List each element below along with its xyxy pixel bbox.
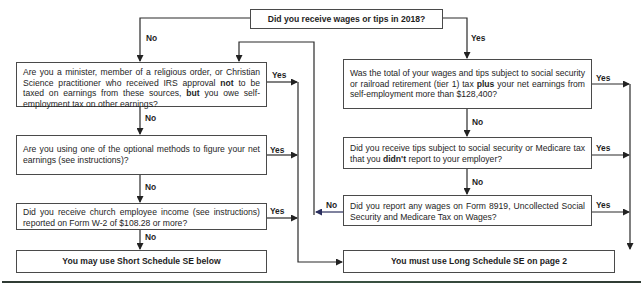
label-yes: Yes xyxy=(270,206,284,216)
label-yes: Yes xyxy=(270,145,284,155)
outcome-long-schedule: You must use Long Schedule SE on page 2 xyxy=(343,250,615,273)
emphasis-but: but xyxy=(186,88,199,98)
question-optional-methods: Are you using one of the optional method… xyxy=(16,135,267,175)
label-yes: Yes xyxy=(471,33,485,43)
label-no: No xyxy=(146,33,157,43)
outcome-short-schedule: You may use Short Schedule SE below xyxy=(16,250,267,273)
question-unreported-tips: Did you receive tips subject to social s… xyxy=(343,137,592,169)
label-no: No xyxy=(472,177,483,187)
label-yes: Yes xyxy=(272,70,286,80)
question-wage-threshold: Was the total of your wages and tips sub… xyxy=(343,59,592,109)
emphasis-didnt: didn't xyxy=(383,154,406,164)
label-yes: Yes xyxy=(596,73,610,83)
label-yes: Yes xyxy=(596,143,610,153)
question-form-8919: Did you report any wages on Form 8919, U… xyxy=(343,195,592,226)
emphasis-plus: plus xyxy=(477,79,495,89)
label-no: No xyxy=(472,117,483,127)
label-no: No xyxy=(145,182,156,192)
emphasis-not: not xyxy=(220,78,233,88)
question-text: report to your employer? xyxy=(406,154,502,164)
label-no: No xyxy=(145,113,156,123)
question-minister-exemption: Are you a minister, member of a religiou… xyxy=(16,62,267,107)
label-no: No xyxy=(145,232,156,242)
section-divider xyxy=(2,281,641,283)
question-church-income: Did you receive church employee income (… xyxy=(16,203,267,230)
label-yes: Yes xyxy=(596,200,610,210)
label-no: No xyxy=(326,200,337,210)
question-wages-or-tips: Did you receive wages or tips in 2018? xyxy=(250,9,443,29)
